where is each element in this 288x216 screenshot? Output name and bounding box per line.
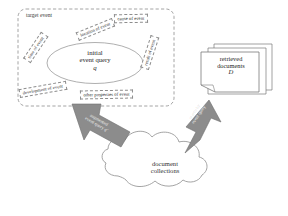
retrieved-documents-symbol: D [200, 69, 262, 76]
document-collections-line-2: collections [134, 168, 196, 175]
initial-query-line-2: event query [54, 57, 136, 64]
initial-query-symbol: q [54, 64, 136, 71]
document-collections-text: document collections [134, 161, 196, 175]
figure-canvas: target event time of event location of e… [0, 0, 288, 216]
target-event-label: target event [26, 13, 52, 19]
facet-chip-other-properties-of-event: other properties of event [80, 90, 133, 100]
facet-chip-cause-of-event: cause of event [114, 14, 148, 24]
retrieved-documents-text: retrieved documents D [200, 56, 262, 76]
diagram-svg [0, 0, 288, 216]
initial-query-text: initial event query q [54, 50, 136, 71]
